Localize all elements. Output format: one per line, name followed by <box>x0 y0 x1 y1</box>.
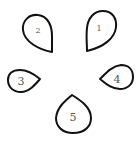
petal-4: 4 <box>100 65 133 89</box>
petal-1: 1 <box>87 11 117 51</box>
petal-3: 3 <box>8 70 40 92</box>
petal-5: 5 <box>56 95 91 133</box>
petal-diagram: 2 1 3 4 5 <box>0 0 139 141</box>
petal-5-label: 5 <box>70 111 77 124</box>
petal-4-label: 4 <box>114 73 121 86</box>
petal-3-label: 3 <box>18 75 25 88</box>
petal-2-label: 2 <box>35 26 40 35</box>
petal-2: 2 <box>23 15 52 52</box>
petal-1-label: 1 <box>96 24 101 33</box>
